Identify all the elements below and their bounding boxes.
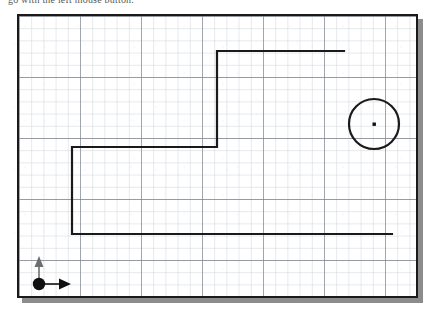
caption-strip: go with the left mouse button. [0, 0, 439, 12]
circle-center-point[interactable] [373, 123, 376, 126]
canvas-drawing-area[interactable] [19, 16, 416, 296]
caption-text: go with the left mouse button. [8, 0, 134, 5]
drawing-canvas-window[interactable] [17, 14, 418, 298]
origin-dot-icon[interactable] [33, 278, 45, 290]
canvas-vector-layer[interactable] [19, 16, 416, 296]
canvas-frame-border [17, 14, 418, 298]
